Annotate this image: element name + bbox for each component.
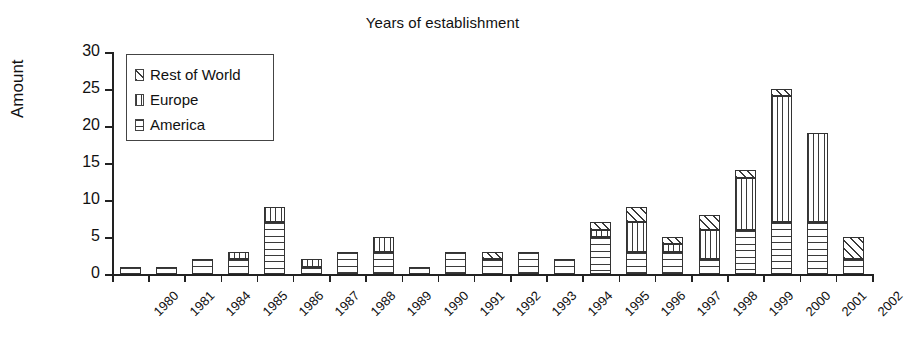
x-tick-label-2000: 2000 xyxy=(802,288,833,319)
bar-segment-1986-america xyxy=(264,222,285,274)
bar-segment-1999-rest-of-world xyxy=(735,170,756,177)
x-tick-label-2001: 2001 xyxy=(838,288,869,319)
x-tick xyxy=(691,274,693,282)
y-tick-label: 15 xyxy=(82,153,100,171)
x-tick xyxy=(438,274,440,282)
x-tick-label-1988: 1988 xyxy=(368,288,399,319)
bar-2002 xyxy=(843,237,864,274)
bar-1986 xyxy=(264,207,285,274)
y-tick-label: 0 xyxy=(91,264,100,282)
bar-segment-1991-america xyxy=(445,252,466,274)
x-tick xyxy=(365,274,367,282)
bar-segment-2000-europe xyxy=(771,96,792,222)
y-tick-25: 25 xyxy=(105,89,113,91)
y-tick-label: 25 xyxy=(82,79,100,97)
x-tick-label-1996: 1996 xyxy=(657,288,688,319)
y-tick-label: 30 xyxy=(82,42,100,60)
bar-segment-1986-europe xyxy=(264,207,285,222)
x-tick xyxy=(148,274,150,282)
legend-item-label: America xyxy=(150,117,205,132)
bar-segment-2000-america xyxy=(771,222,792,274)
chart-title: Years of establishment xyxy=(0,14,885,31)
legend-item-rest-of-world[interactable]: Rest of World xyxy=(135,62,273,87)
x-tick-label-1986: 1986 xyxy=(295,288,326,319)
y-tick-label: 10 xyxy=(82,190,100,208)
x-tick xyxy=(836,274,838,282)
bar-1998 xyxy=(699,215,720,274)
x-tick xyxy=(800,274,802,282)
bar-segment-1981-america xyxy=(156,267,177,274)
bar-segment-1994-america xyxy=(554,259,575,274)
x-tick xyxy=(655,274,657,282)
x-tick xyxy=(619,274,621,282)
x-tick xyxy=(510,274,512,282)
bar-segment-1995-america xyxy=(590,237,611,274)
x-tick-label-1992: 1992 xyxy=(512,288,543,319)
bar-segment-2001-europe xyxy=(807,133,828,222)
bar-segment-2002-america xyxy=(843,259,864,274)
bar-1984 xyxy=(192,259,213,274)
x-tick xyxy=(727,274,729,282)
bar-1981 xyxy=(156,267,177,274)
bar-segment-1996-america xyxy=(626,252,647,274)
bar-2001 xyxy=(807,133,828,274)
x-tick-label-1999: 1999 xyxy=(766,288,797,319)
bar-1985 xyxy=(228,252,249,274)
bar-1992 xyxy=(482,252,503,274)
bar-segment-1998-rest-of-world xyxy=(699,215,720,230)
y-tick-label: 5 xyxy=(91,227,100,245)
bar-segment-1996-europe xyxy=(626,222,647,252)
legend-item-europe[interactable]: Europe xyxy=(135,87,273,112)
bar-segment-1992-america xyxy=(482,259,503,274)
bar-1996 xyxy=(626,207,647,274)
y-tick-15: 15 xyxy=(105,163,113,165)
y-tick-20: 20 xyxy=(105,126,113,128)
bar-segment-1999-europe xyxy=(735,178,756,230)
bar-segment-2002-rest-of-world xyxy=(843,237,864,259)
legend-swatch-icon xyxy=(135,94,144,106)
x-tick xyxy=(293,274,295,282)
x-tick xyxy=(582,274,584,282)
legend-item-america[interactable]: America xyxy=(135,112,273,137)
bar-1988 xyxy=(337,252,358,274)
x-tick-label-1981: 1981 xyxy=(187,288,218,319)
x-tick-label-1987: 1987 xyxy=(332,288,363,319)
x-tick xyxy=(112,274,114,282)
y-axis-title: Amount xyxy=(8,59,28,118)
x-tick-label-1997: 1997 xyxy=(693,288,724,319)
bar-segment-1984-america xyxy=(192,259,213,274)
bar-segment-2000-rest-of-world xyxy=(771,89,792,96)
bar-2000 xyxy=(771,89,792,274)
bar-segment-1980-america xyxy=(120,267,141,274)
x-tick-label-1984: 1984 xyxy=(223,288,254,319)
bar-1989 xyxy=(373,237,394,274)
bar-1987 xyxy=(301,259,322,274)
x-tick-label-1985: 1985 xyxy=(259,288,290,319)
y-tick-10: 10 xyxy=(105,200,113,202)
bar-segment-1997-america xyxy=(662,252,683,274)
x-tick-label-1995: 1995 xyxy=(621,288,652,319)
x-tick-label-1998: 1998 xyxy=(730,288,761,319)
bar-segment-1997-rest-of-world xyxy=(662,237,683,244)
legend-swatch-icon xyxy=(135,69,144,81)
bar-1995 xyxy=(590,222,611,274)
bar-segment-1992-rest-of-world xyxy=(482,252,503,259)
bar-1993 xyxy=(518,252,539,274)
x-tick xyxy=(184,274,186,282)
bar-1997 xyxy=(662,237,683,274)
bar-segment-1989-europe xyxy=(373,237,394,252)
y-tick-5: 5 xyxy=(105,237,113,239)
bar-segment-1996-rest-of-world xyxy=(626,207,647,222)
chart-legend: Rest of WorldEuropeAmerica xyxy=(126,54,274,141)
bar-segment-1987-europe xyxy=(301,259,322,266)
bar-1990 xyxy=(409,267,430,274)
bar-segment-1988-america xyxy=(337,252,358,274)
bar-segment-1995-rest-of-world xyxy=(590,222,611,229)
bar-segment-1997-europe xyxy=(662,244,683,251)
bar-segment-1985-europe xyxy=(228,252,249,259)
bar-segment-1995-europe xyxy=(590,230,611,237)
x-tick xyxy=(763,274,765,282)
legend-item-label: Europe xyxy=(150,92,198,107)
x-tick xyxy=(546,274,548,282)
x-tick-label-1980: 1980 xyxy=(151,288,182,319)
